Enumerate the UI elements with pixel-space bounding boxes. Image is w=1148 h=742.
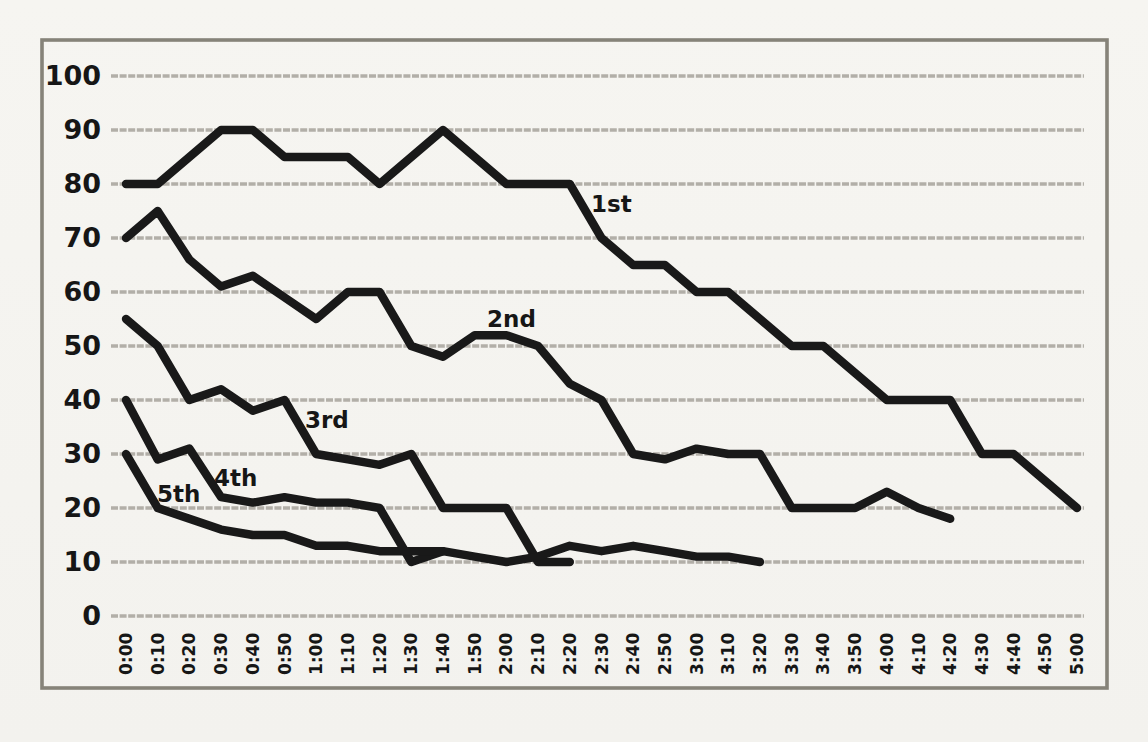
x-tick-label-3:50: 3:50 xyxy=(845,633,865,675)
x-tick-label-4:30: 4:30 xyxy=(972,633,992,675)
y-tick-label-0: 0 xyxy=(82,600,101,631)
x-tick-label-4:40: 4:40 xyxy=(1004,633,1024,675)
x-tick-label-1:00: 1:00 xyxy=(306,633,326,675)
x-tick-label-0:50: 0:50 xyxy=(275,633,295,675)
x-tick-label-2:30: 2:30 xyxy=(592,633,612,675)
x-tick-label-1:40: 1:40 xyxy=(433,633,453,675)
x-tick-label-4:50: 4:50 xyxy=(1035,633,1055,675)
series-label-4th: 4th xyxy=(214,465,257,491)
x-tick-label-1:10: 1:10 xyxy=(338,633,358,675)
series-line-1st xyxy=(126,130,1077,508)
y-tick-label-90: 90 xyxy=(63,114,101,145)
y-tick-label-80: 80 xyxy=(63,168,101,199)
x-tick-label-0:10: 0:10 xyxy=(148,633,168,675)
series-label-2nd: 2nd xyxy=(487,306,536,332)
x-tick-label-5:00: 5:00 xyxy=(1067,633,1087,675)
x-tick-label-1:50: 1:50 xyxy=(465,633,485,675)
x-tick-label-2:50: 2:50 xyxy=(655,633,675,675)
y-tick-label-10: 10 xyxy=(63,546,101,577)
chart-frame-border xyxy=(42,40,1107,688)
series-label-1st: 1st xyxy=(591,191,632,217)
x-tick-label-3:00: 3:00 xyxy=(687,633,707,675)
x-tick-label-3:10: 3:10 xyxy=(718,633,738,675)
x-tick-label-2:20: 2:20 xyxy=(560,633,580,675)
y-tick-label-100: 100 xyxy=(45,60,101,91)
x-tick-label-4:00: 4:00 xyxy=(877,633,897,675)
series-line-3rd xyxy=(126,319,570,562)
y-tick-label-60: 60 xyxy=(63,276,101,307)
x-tick-label-0:40: 0:40 xyxy=(243,633,263,675)
y-tick-label-50: 50 xyxy=(63,330,101,361)
x-tick-label-2:10: 2:10 xyxy=(528,633,548,675)
x-tick-label-4:20: 4:20 xyxy=(940,633,960,675)
x-tick-label-3:20: 3:20 xyxy=(750,633,770,675)
y-tick-label-40: 40 xyxy=(63,384,101,415)
x-tick-label-4:10: 4:10 xyxy=(909,633,929,675)
x-tick-label-1:20: 1:20 xyxy=(370,633,390,675)
y-tick-label-20: 20 xyxy=(63,492,101,523)
x-tick-label-2:40: 2:40 xyxy=(623,633,643,675)
x-tick-label-0:30: 0:30 xyxy=(211,633,231,675)
series-label-5th: 5th xyxy=(157,481,200,507)
y-tick-label-30: 30 xyxy=(63,438,101,469)
x-tick-label-2:00: 2:00 xyxy=(496,633,516,675)
figure-frame: 01020304050607080901000:000:100:200:300:… xyxy=(0,0,1148,742)
x-tick-label-0:00: 0:00 xyxy=(116,633,136,675)
series-label-3rd: 3rd xyxy=(305,407,349,433)
x-tick-label-3:40: 3:40 xyxy=(813,633,833,675)
x-tick-label-0:20: 0:20 xyxy=(179,633,199,675)
y-tick-label-70: 70 xyxy=(63,222,101,253)
x-tick-label-3:30: 3:30 xyxy=(782,633,802,675)
x-tick-label-1:30: 1:30 xyxy=(401,633,421,675)
score-line-chart: 01020304050607080901000:000:100:200:300:… xyxy=(0,0,1148,742)
